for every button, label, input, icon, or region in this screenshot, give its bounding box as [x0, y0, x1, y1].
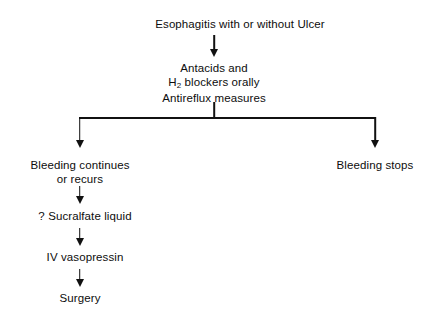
node-therapy-line1: Antacids and [162, 61, 266, 75]
node-bleeding-continues: Bleeding continues or recurs [31, 158, 130, 186]
node-esophagitis: Esophagitis with or without Ulcer [155, 17, 324, 31]
node-bleeding-stops: Bleeding stops [337, 158, 414, 172]
node-surgery-label: Surgery [60, 291, 101, 305]
node-vasopressin: IV vasopressin [47, 250, 124, 264]
edge-branch-right-arrowhead [371, 140, 379, 148]
node-bleeding-stops-label: Bleeding stops [337, 158, 414, 172]
node-therapy-line2: H2 blockers orally [162, 75, 266, 91]
edge-root-to-therapy-arrowhead [210, 49, 218, 57]
edge-vasopressin-to-surgery-arrowhead [76, 279, 84, 287]
node-bleeding-continues-line1: Bleeding continues [31, 158, 130, 172]
edge-therapy-branch-bar [79, 117, 376, 119]
node-therapy-line2-suffix: blockers orally [181, 76, 259, 88]
edge-sucralfate-to-vasopressin-arrowhead [76, 238, 84, 246]
node-therapy: Antacids and H2 blockers orally Antirefl… [162, 61, 266, 105]
node-sucralfate-label: ? Sucralfate liquid [38, 209, 131, 223]
node-bleeding-continues-line2: or recurs [31, 172, 130, 186]
edge-continues-to-sucralfate-arrowhead [76, 196, 84, 204]
node-sucralfate: ? Sucralfate liquid [38, 209, 131, 223]
edge-branch-left-arrowhead [76, 140, 84, 148]
node-vasopressin-label: IV vasopressin [47, 250, 124, 264]
node-therapy-line2-prefix: H [168, 76, 176, 88]
node-therapy-line2-subscript: 2 [177, 81, 182, 90]
node-surgery: Surgery [60, 291, 101, 305]
flowchart-canvas: Esophagitis with or without Ulcer Antaci… [0, 0, 436, 324]
node-esophagitis-label: Esophagitis with or without Ulcer [155, 17, 324, 31]
